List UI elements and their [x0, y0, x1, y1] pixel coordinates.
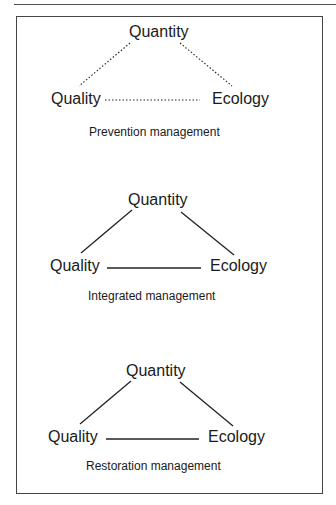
prevention-caption: Prevention management [89, 126, 220, 138]
prevention-edge-quantity-ecology [180, 43, 232, 86]
prevention-node-quantity: Quantity [129, 24, 189, 40]
prevention-connectors [79, 43, 232, 100]
restoration-edge-quantity-ecology [180, 382, 233, 426]
restoration-caption: Restoration management [86, 460, 221, 472]
integrated-node-ecology: Ecology [210, 258, 267, 274]
restoration-edge-quantity-quality [80, 381, 131, 424]
prevention-node-ecology: Ecology [212, 91, 269, 107]
prevention-node-quality: Quality [51, 91, 101, 107]
integrated-edge-quantity-quality [81, 210, 132, 253]
restoration-node-quality: Quality [48, 429, 98, 445]
integrated-node-quality: Quality [50, 258, 100, 274]
restoration-node-quantity: Quantity [126, 363, 186, 379]
integrated-edge-quantity-ecology [181, 212, 234, 255]
prevention-edge-quantity-quality [79, 43, 130, 86]
integrated-node-quantity: Quantity [128, 192, 188, 208]
restoration-node-ecology: Ecology [208, 429, 265, 445]
integrated-caption: Integrated management [88, 290, 215, 302]
